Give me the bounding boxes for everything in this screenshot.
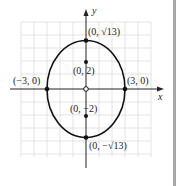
top-vertex-label: (0, √13) <box>88 26 120 38</box>
y-axis-arrow-icon <box>84 9 89 16</box>
y-axis-label: y <box>91 5 97 16</box>
ellipse-diagram: x y (0, √13) (0, −√13) (−3, 0) (3, 0) (0… <box>0 0 180 186</box>
x-axis-label: x <box>157 91 163 102</box>
top-vertex-point <box>84 38 89 43</box>
right-vertex-point <box>123 87 128 92</box>
left-vertex-label: (−3, 0) <box>13 75 40 87</box>
left-vertex-point <box>45 87 50 92</box>
focus-bottom-point <box>84 114 88 118</box>
focus-top-label: (0, 2) <box>73 65 95 77</box>
focus-top-point <box>84 60 88 64</box>
page-edge-divider <box>173 0 176 186</box>
center-point <box>84 87 89 92</box>
bottom-vertex-point <box>84 135 89 140</box>
bottom-vertex-label: (0, −√13) <box>89 140 127 152</box>
focus-bottom-label: (0, −2) <box>70 103 97 115</box>
right-vertex-label: (3, 0) <box>127 75 149 87</box>
